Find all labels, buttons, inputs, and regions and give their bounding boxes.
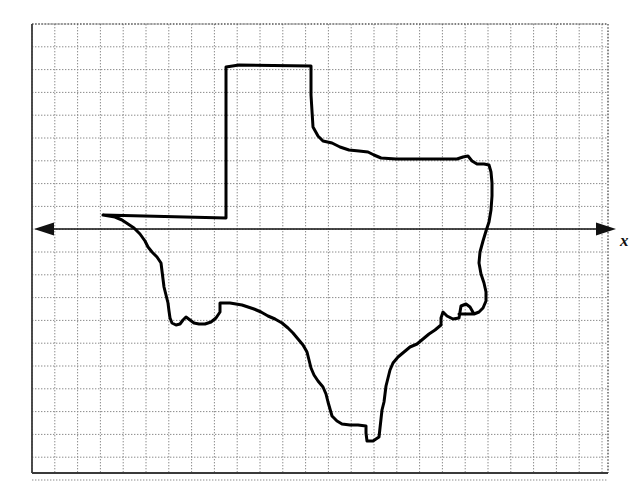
coordinate-grid-figure: x: [0, 0, 631, 504]
figure-page: x: [0, 0, 631, 504]
x-axis-label: x: [619, 231, 629, 250]
